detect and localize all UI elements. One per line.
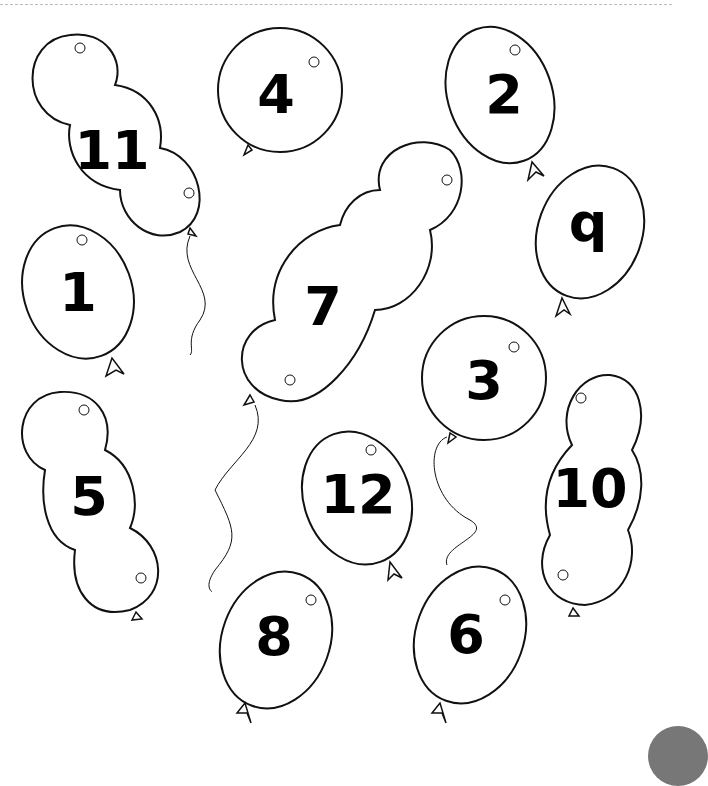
balloon-10-label: 10 [552,457,627,520]
balloon-8: 8 [201,556,350,724]
balloon-1-label: 1 [59,261,97,324]
balloon-1: 1 [4,210,152,376]
balloon-2: 2 [427,11,573,180]
balloon-6: 6 [395,551,544,723]
balloon-7-label: 7 [304,275,342,338]
balloon-8-label: 8 [255,605,293,668]
balloon-3-label: 3 [465,349,503,412]
page-corner-tab [648,726,708,786]
balloon-2-label: 2 [485,63,523,126]
balloon-5-label: 5 [70,465,108,528]
balloon-9: q [518,150,662,316]
balloon-12-label: 12 [320,463,395,526]
balloon-6-label: 6 [447,603,485,666]
balloon-4-label: 4 [257,63,295,126]
balloon-5: 5 [22,392,158,620]
balloon-9-label: q [569,191,608,254]
balloon-3: 3 [422,316,546,565]
balloon-11-label: 11 [74,119,149,182]
balloon-12: 12 [284,416,430,580]
balloon-10: 10 [542,375,641,616]
balloon-4: 4 [218,28,342,155]
